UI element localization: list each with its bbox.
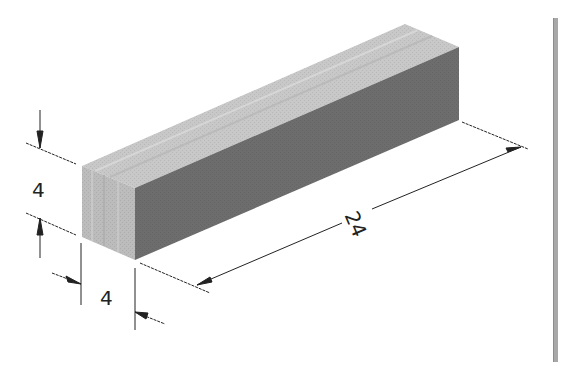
block-drawing: 4 4 24 [0, 0, 561, 369]
length-label: 24 [340, 207, 372, 240]
height-label: 4 [32, 178, 45, 202]
width-label: 4 [100, 286, 113, 310]
